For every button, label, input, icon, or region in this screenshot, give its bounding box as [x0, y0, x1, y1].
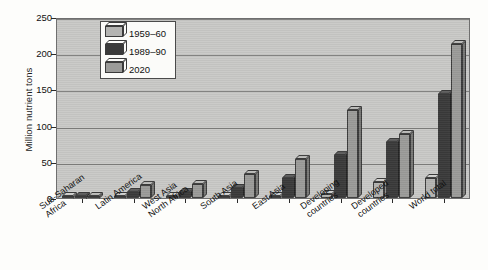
x-axis-tick-mark	[289, 199, 290, 203]
x-axis-tick-label: Latin America	[94, 172, 144, 212]
x-axis-tick-label: World total	[408, 179, 448, 212]
x-axis-tick-label: Sub-SaharanAfrica	[38, 173, 92, 220]
x-axis-tick-label: East Asia	[251, 182, 287, 212]
x-axis-tick-label: Developingcountries	[299, 178, 347, 220]
x-axis-tick-mark	[392, 199, 393, 203]
bar-chart: Million nutrient tons 050100150200250 19…	[0, 0, 488, 270]
x-axis-tick-labels: Sub-SaharanAfricaLatin AmericaWest AsiaN…	[0, 0, 488, 270]
x-axis-tick-mark	[444, 199, 445, 203]
x-axis-tick-label: South Asia	[199, 179, 240, 212]
x-axis-tick-label: Developedcountries	[350, 179, 396, 220]
x-axis-tick-mark	[82, 199, 83, 203]
x-axis-tick-mark	[237, 199, 238, 203]
x-axis-tick-mark	[185, 199, 186, 203]
x-axis-tick-label: West AsiaNorth Africa	[141, 176, 190, 219]
x-axis-tick-mark	[134, 199, 135, 203]
x-axis-tick-mark	[341, 199, 342, 203]
